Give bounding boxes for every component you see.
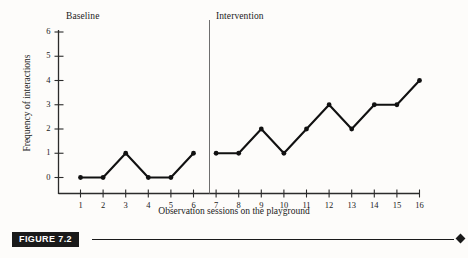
y-tick-label: 3 <box>39 99 51 109</box>
data-series-lines <box>81 81 420 178</box>
figure-number-badge: FIGURE 7.2 <box>12 232 79 247</box>
data-point-marker <box>123 151 128 156</box>
y-tick-label: 4 <box>39 75 51 85</box>
figure-caption-bar: FIGURE 7.2 <box>0 232 468 258</box>
data-point-marker <box>236 151 241 156</box>
data-point-markers <box>78 78 422 180</box>
chart-plot-area: Baseline Intervention 0123456 1234567891… <box>0 0 468 224</box>
caption-diamond-icon <box>456 234 466 244</box>
data-point-marker <box>101 175 106 180</box>
data-point-marker <box>191 151 196 156</box>
data-point-marker <box>214 151 219 156</box>
data-point-marker <box>78 175 83 180</box>
data-point-marker <box>259 127 264 132</box>
figure-container: Baseline Intervention 0123456 1234567891… <box>0 0 468 258</box>
data-point-marker <box>146 175 151 180</box>
data-point-marker <box>349 127 354 132</box>
data-point-marker <box>282 151 287 156</box>
y-tick-label: 2 <box>39 123 51 133</box>
y-tick-label: 6 <box>39 26 51 36</box>
data-point-marker <box>395 102 400 107</box>
data-point-marker <box>327 102 332 107</box>
data-point-marker <box>372 102 377 107</box>
y-tick-label: 1 <box>39 147 51 157</box>
caption-rule-line <box>92 239 454 240</box>
data-point-marker <box>417 78 422 83</box>
x-axis-title: Observation sessions on the playground <box>0 206 468 216</box>
y-tick-label: 5 <box>39 50 51 60</box>
series-polyline <box>216 81 419 154</box>
line-chart-svg <box>0 0 468 224</box>
y-axis-title: Frequency of interactions <box>22 23 32 183</box>
series-polyline <box>81 153 194 177</box>
data-point-marker <box>304 127 309 132</box>
y-tick-label: 0 <box>39 172 51 182</box>
data-point-marker <box>169 175 174 180</box>
